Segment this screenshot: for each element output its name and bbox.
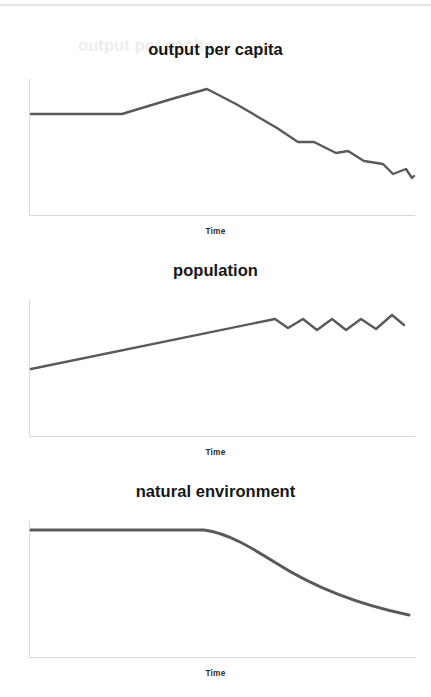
chart-plot-output-per-capita xyxy=(0,68,431,228)
chart-axes-natural-environment xyxy=(30,521,416,658)
chart-title-natural-environment: natural environment xyxy=(0,482,431,501)
chart-axes-output-per-capita xyxy=(30,79,416,216)
chart-output-per-capita: output per capita Time xyxy=(0,40,431,240)
chart-title-population: population xyxy=(0,261,431,280)
top-divider xyxy=(0,4,431,6)
chart-series-line-population xyxy=(31,315,404,369)
chart-population: population Time xyxy=(0,261,431,461)
chart-plot-population xyxy=(0,289,431,449)
chart-xlabel-population: Time xyxy=(0,447,431,457)
chart-natural-environment: natural environment Time xyxy=(0,482,431,682)
chart-plot-natural-environment xyxy=(0,510,431,670)
chart-page: output per capita output per capita Time… xyxy=(0,0,431,697)
chart-xlabel-output-per-capita: Time xyxy=(0,226,431,236)
chart-title-output-per-capita: output per capita xyxy=(0,40,431,59)
chart-xlabel-natural-environment: Time xyxy=(0,668,431,678)
chart-series-line-output-per-capita xyxy=(31,89,414,178)
chart-series-line-natural-environment xyxy=(31,530,409,615)
